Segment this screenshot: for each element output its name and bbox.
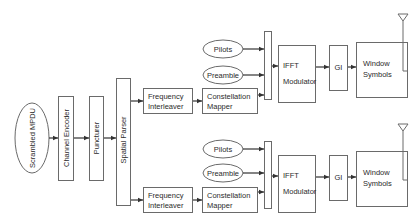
transmitter-block-diagram: Scrambled MPDU Channel Encoder Puncturer… <box>0 0 420 222</box>
window-symbols-label-2b: Symbols <box>363 179 392 188</box>
window-symbols-label-1b: Symbols <box>363 70 392 79</box>
pilots-label-1: Pilots <box>214 45 233 54</box>
combiner-bar-1 <box>265 32 272 100</box>
constellation-mapper-label-2a: Constellation <box>207 191 250 200</box>
scrambled-mpdu-label: Scrambled MPDU <box>28 108 37 168</box>
channel-encoder-label: Channel Encoder <box>62 109 71 167</box>
constellation-mapper-label-1a: Constellation <box>207 92 250 101</box>
freq-interleaver-label-1a: Frequency <box>148 92 184 101</box>
freq-interleaver-label-2b: Interleaver <box>148 201 184 210</box>
constellation-mapper-label-2b: Mapper <box>207 201 233 210</box>
freq-interleaver-label-2a: Frequency <box>148 191 184 200</box>
ifft-modulator-block-1 <box>279 46 316 103</box>
constellation-mapper-label-1b: Mapper <box>207 102 233 111</box>
freq-interleaver-label-1b: Interleaver <box>148 102 184 111</box>
gi-label-2: GI <box>335 173 343 182</box>
gi-label-1: GI <box>335 63 343 72</box>
preamble-label-1: Preamble <box>207 71 239 80</box>
preamble-label-2: Preamble <box>207 169 239 178</box>
ifft-label-2a: IFFT <box>283 171 299 180</box>
window-symbols-label-2a: Window <box>363 168 390 177</box>
spatial-parser-label: Spatial Parser <box>119 116 128 164</box>
window-symbols-label-1a: Window <box>363 59 390 68</box>
combiner-bar-2 <box>265 142 272 209</box>
puncturer-label: Puncturer <box>92 121 101 154</box>
ifft-modulator-block-2 <box>279 156 316 213</box>
ifft-label-1b: Modulator <box>283 77 317 86</box>
ifft-label-2b: Modulator <box>283 187 317 196</box>
pilots-label-2: Pilots <box>214 145 233 154</box>
ifft-label-1a: IFFT <box>283 61 299 70</box>
